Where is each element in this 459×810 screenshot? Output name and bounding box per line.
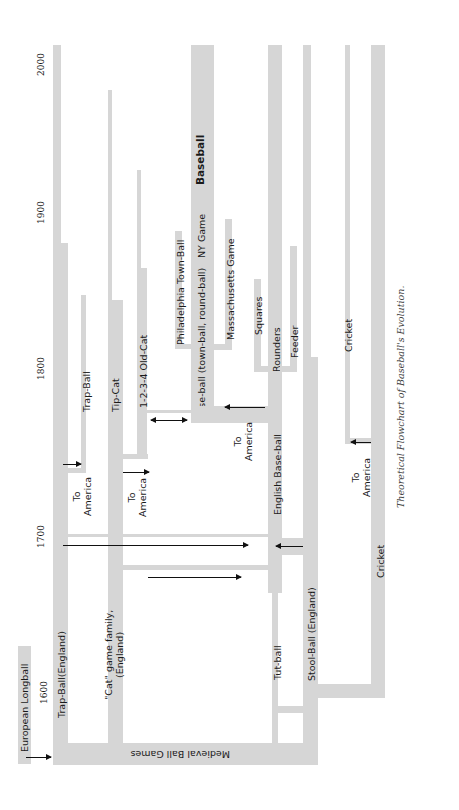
trap-ball-england-label: Trap-Ball(England) <box>56 631 67 718</box>
cricket-america-label: Cricket <box>343 319 354 352</box>
cricket-america-bar <box>345 45 350 444</box>
trap-ball-to-english-arrow <box>63 545 248 546</box>
base-ball-label: Base-ball (town-ball, round-ball) <box>196 268 207 420</box>
stool-ball-label: Stool-Ball (England) <box>306 587 317 681</box>
baseball-label: Baseball <box>195 135 206 185</box>
medieval-ball-games-text: Medieval Ball Games <box>130 749 230 760</box>
massachusetts-game-label: Massachusetts Game <box>225 239 236 341</box>
english-to-baseball-arrow <box>225 407 265 408</box>
longball-to-medieval-arrow <box>26 757 51 758</box>
tut-ball-label: Tut-ball <box>272 645 283 680</box>
philadelphia-town-ball-label: Philadelphia Town-Ball <box>175 240 186 345</box>
year-1800: 1800 <box>36 357 46 380</box>
trap-ball-england-thin <box>53 45 61 245</box>
cat-family-label: "Cat" game family,(England) <box>103 610 125 700</box>
old-cat-baseball-connector <box>146 410 192 413</box>
english-base-ball-label: English Base-ball <box>272 434 283 515</box>
squares-label: Squares <box>253 297 264 335</box>
to-text: To <box>71 491 82 501</box>
year-1900: 1900 <box>36 201 46 224</box>
cricket-trunk <box>371 45 385 698</box>
trap-ball-to-america-arrow <box>63 464 81 465</box>
cat-family-text-2: (England) <box>114 632 125 678</box>
european-longball-label: European Longball <box>19 664 30 752</box>
year-2000: 2000 <box>36 53 46 76</box>
old-cat-baseball-bidirectional-arrow <box>151 420 187 421</box>
america-text: America <box>361 458 372 497</box>
cricket-label: Cricket <box>375 545 386 578</box>
to-text: To <box>232 436 243 446</box>
america-text: America <box>243 422 254 461</box>
to-text: To <box>350 472 361 482</box>
old-cat-thin <box>137 170 141 270</box>
base-ball-input-connector <box>191 406 271 423</box>
cat-family-thin <box>108 90 112 302</box>
old-cat-label: 1-2-3-4 Old-Cat <box>138 335 149 408</box>
cat-to-america-label: ToAmerica <box>126 478 148 517</box>
feeder-label: Feeder <box>289 326 300 358</box>
cricket-base-connector <box>318 684 385 698</box>
ny-game-label: NY Game <box>196 214 207 258</box>
stool-ball-trunk <box>303 357 318 765</box>
cat-to-english-arrow <box>148 577 241 578</box>
trap-ball-to-america-label: ToAmerica <box>71 477 93 516</box>
cricket-to-america-label: ToAmerica <box>350 458 372 497</box>
cat-to-america-arrow <box>123 472 149 473</box>
cat-to-english-connector <box>122 565 270 570</box>
tip-cat-label: Tip-Cat <box>110 378 121 412</box>
cricket-to-america-arrow <box>351 442 371 443</box>
trap-ball-label: Trap-Ball <box>81 371 92 412</box>
year-1700: 1700 <box>36 525 46 548</box>
english-to-america-label: ToAmerica <box>232 422 254 461</box>
cat-family-text: "Cat" game family, <box>103 610 114 700</box>
america-text: America <box>82 477 93 516</box>
stool-ball-thin <box>303 45 311 360</box>
trap-ball-to-english-connector <box>68 534 270 537</box>
america-text: America <box>137 478 148 517</box>
stool-to-english-arrow <box>276 546 304 547</box>
figure-caption: Theoretical Flowchart of Baseball's Evol… <box>395 286 406 508</box>
year-1600: 1600 <box>39 681 49 704</box>
to-text: To <box>126 492 137 502</box>
